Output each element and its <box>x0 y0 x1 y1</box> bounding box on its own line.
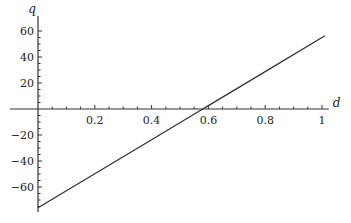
y-tick-label: 60 <box>20 25 34 38</box>
x-tick-label: 0.2 <box>86 114 104 127</box>
plot-area <box>38 36 325 208</box>
x-tick-label: 1 <box>319 114 326 127</box>
y-tick-label: 20 <box>20 77 34 90</box>
y-tick-label: −60 <box>11 181 34 194</box>
y-tick-label: −20 <box>11 129 34 142</box>
x-axis-label: d <box>333 96 341 110</box>
data-line <box>38 36 325 208</box>
x-tick-label: 0.8 <box>256 114 274 127</box>
axes: 0.20.40.60.81604020−20−40−60qd <box>10 2 341 212</box>
line-chart: 0.20.40.60.81604020−20−40−60qd <box>0 0 351 223</box>
y-tick-label: 40 <box>20 51 34 64</box>
y-tick-label: −40 <box>11 155 34 168</box>
x-tick-label: 0.6 <box>200 114 218 127</box>
x-tick-label: 0.4 <box>143 114 161 127</box>
y-axis-label: q <box>28 2 36 16</box>
